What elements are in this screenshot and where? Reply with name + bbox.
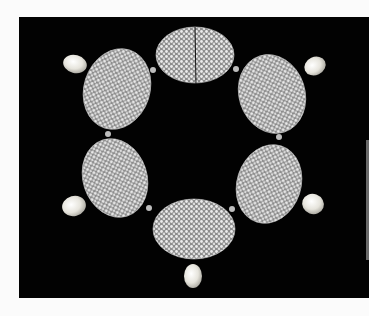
necklace-image	[0, 0, 369, 316]
diamond-clusters	[72, 27, 316, 259]
